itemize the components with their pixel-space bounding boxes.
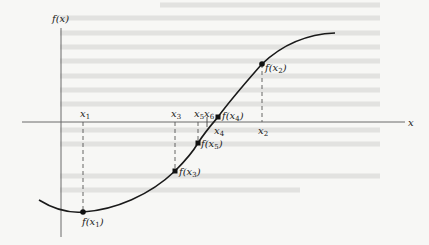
point-f-x1: [80, 209, 86, 215]
label-x2: x2: [258, 125, 268, 138]
point-f-x2: [259, 61, 265, 67]
point-f-x4: [216, 115, 221, 120]
label-x4: x4: [214, 125, 225, 138]
label-x6: x6: [204, 108, 215, 121]
label-f-x5: f(x5): [200, 138, 223, 151]
y-axis-label: f(x): [51, 13, 69, 24]
point-f-x3: [173, 169, 178, 174]
label-f-x2: f(x2): [264, 62, 287, 75]
label-x3: x3: [171, 108, 181, 121]
label-f-x4: f(x4): [221, 110, 244, 123]
label-f-x1: f(x1): [81, 216, 104, 229]
x-axis-label: x: [408, 117, 414, 128]
label-x5: x5: [194, 108, 204, 121]
point-f-x5: [196, 141, 201, 146]
bisection-diagram: f(x) x x1 x3 x5 x6 x4 x2 f(x1) f(x3) f(x…: [0, 0, 429, 245]
label-x1: x1: [80, 108, 90, 121]
